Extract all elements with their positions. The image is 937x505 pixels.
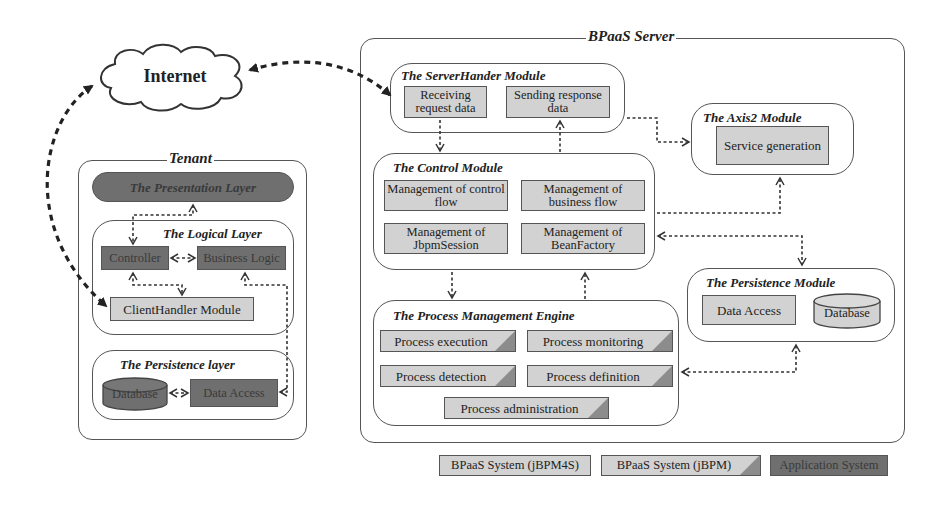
client-handler-box: ClientHandler Module [110, 297, 254, 321]
tenant-database-label: Database [102, 387, 168, 402]
process-definition-label: Process definition [546, 370, 654, 383]
corner-marker-icon [495, 366, 515, 386]
internet-label: Internet [95, 66, 255, 87]
control-flow-box: Management of control flow [384, 180, 508, 211]
legend-jbpm: BPaaS System (jBPM) [601, 455, 761, 476]
corner-marker-icon [652, 331, 672, 351]
bpaas-server-title: BPaaS Server [586, 28, 676, 45]
control-flow-label: Management of control flow [385, 183, 507, 209]
server-data-access-label: Data Access [717, 304, 781, 317]
sending-response-label: Sending response data [507, 89, 609, 115]
bean-factory-box: Management of BeanFactory [521, 223, 645, 254]
presentation-layer: The Presentation Layer [92, 172, 294, 202]
presentation-layer-label: The Presentation Layer [130, 181, 256, 194]
controller-box: Controller [101, 246, 169, 270]
process-administration-label: Process administration [460, 402, 592, 415]
legend-jbpm-label: BPaaS System (jBPM) [617, 458, 746, 473]
corner-marker-icon [588, 398, 608, 418]
process-monitoring-label: Process monitoring [543, 335, 658, 348]
business-logic-label: Business Logic [203, 252, 280, 265]
receiving-request-box: Receiving request data [404, 86, 487, 118]
service-generation-box: Service generation [716, 126, 829, 165]
controller-label: Controller [109, 252, 160, 265]
tenant-persistence-title: The Persistence layer [120, 357, 235, 373]
receiving-request-label: Receiving request data [405, 89, 486, 115]
legend-application-label: Application System [780, 458, 879, 473]
jbpm-session-box: Management of JbpmSession [384, 223, 508, 254]
client-handler-label: ClientHandler Module [123, 303, 240, 316]
jbpm-session-label: Management of JbpmSession [385, 226, 507, 252]
process-definition-box: Process definition [527, 365, 673, 387]
axis2-title: The Axis2 Module [703, 110, 801, 126]
process-monitoring-box: Process monitoring [527, 330, 673, 352]
legend-jbpm4s-label: BPaaS System (jBPM4S) [451, 458, 579, 473]
process-administration-box: Process administration [444, 397, 609, 419]
corner-marker-icon [495, 331, 515, 351]
server-database-label: Database [813, 306, 881, 321]
server-handler-title: The ServerHander Module [401, 68, 545, 84]
business-flow-box: Management of business flow [521, 180, 645, 211]
bean-factory-label: Management of BeanFactory [522, 226, 644, 252]
process-detection-label: Process detection [396, 370, 501, 383]
process-engine-title: The Process Management Engine [393, 308, 575, 324]
process-execution-label: Process execution [394, 335, 502, 348]
legend-application: Application System [770, 455, 888, 476]
server-persistence-title: The Persistence Module [706, 275, 835, 291]
service-generation-label: Service generation [724, 139, 821, 152]
process-execution-box: Process execution [380, 330, 516, 352]
sending-response-box: Sending response data [506, 86, 610, 118]
corner-marker-icon [740, 455, 760, 475]
tenant-title: Tenant [167, 150, 214, 167]
legend-jbpm4s: BPaaS System (jBPM4S) [439, 455, 591, 476]
tenant-data-access-label: Data Access [203, 387, 264, 400]
business-flow-label: Management of business flow [522, 183, 644, 209]
tenant-data-access-box: Data Access [190, 379, 278, 407]
server-data-access-box: Data Access [702, 295, 796, 325]
corner-marker-icon [652, 366, 672, 386]
business-logic-box: Business Logic [197, 246, 286, 270]
logical-layer-title: The Logical Layer [163, 226, 262, 242]
control-title: The Control Module [393, 160, 503, 176]
process-detection-box: Process detection [380, 365, 516, 387]
